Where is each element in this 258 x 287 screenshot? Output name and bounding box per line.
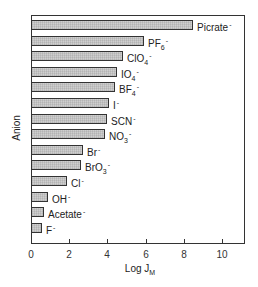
x-tick-label: 6 — [136, 249, 156, 260]
bar — [31, 129, 105, 139]
bar — [31, 82, 115, 92]
bar-label: F- — [46, 223, 55, 236]
y-axis-label: Anion — [11, 115, 22, 141]
bar — [31, 176, 67, 186]
bar — [31, 20, 193, 30]
bar — [31, 114, 107, 124]
bar — [31, 145, 83, 155]
bar — [31, 207, 44, 217]
bar — [31, 192, 48, 202]
bar — [31, 223, 42, 233]
x-axis-label-subscript: M — [149, 269, 155, 276]
x-tick-mark — [146, 239, 147, 243]
x-tick-label: 10 — [212, 249, 232, 260]
x-tick-label: 0 — [21, 249, 41, 260]
x-tick-label: 4 — [97, 249, 117, 260]
bar-label: SCN- — [111, 114, 135, 127]
x-tick-label: 2 — [59, 249, 79, 260]
x-tick-mark — [184, 239, 185, 243]
x-tick-label: 8 — [174, 249, 194, 260]
bar-label: I- — [113, 98, 119, 111]
x-axis-label: Log JM — [110, 263, 170, 276]
bar-label: ClO4- — [127, 51, 151, 68]
x-axis-label-main: Log J — [125, 263, 149, 274]
bar-label: BF4- — [119, 82, 139, 99]
bar-label: OH- — [52, 192, 70, 205]
x-tick-mark — [69, 239, 70, 243]
x-tick-mark — [107, 239, 108, 243]
bar-label: Cl- — [71, 176, 84, 189]
bar — [31, 36, 144, 46]
anion-log-jm-bar-chart: Picrate-PF6-ClO4-IO4-BF4-I-SCN-NO3-Br-Br… — [0, 0, 258, 287]
bar — [31, 98, 109, 108]
bar-label: Acetate- — [48, 207, 85, 220]
x-tick-mark — [222, 239, 223, 243]
bar-label: Br- — [87, 145, 100, 158]
bar — [31, 160, 81, 170]
bar-label: Picrate- — [197, 20, 231, 33]
bar — [31, 67, 117, 77]
bar — [31, 51, 123, 61]
bar-label: BrO3- — [85, 160, 110, 177]
bar-label: NO3- — [109, 129, 131, 146]
